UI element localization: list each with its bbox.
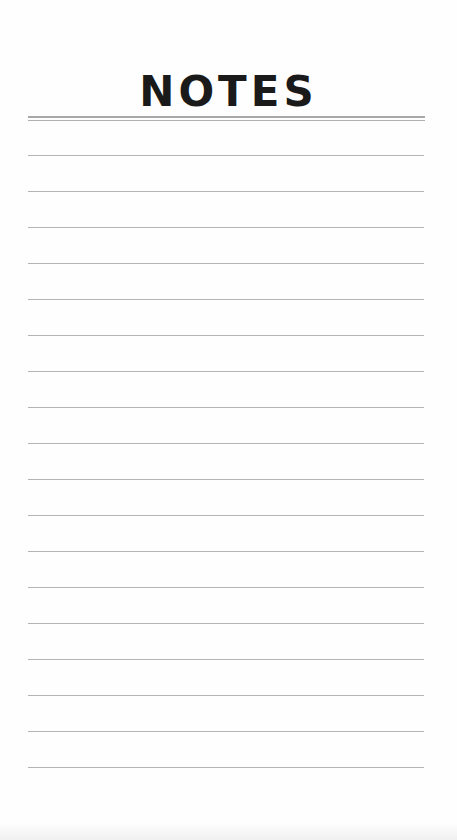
writing-line <box>28 335 424 336</box>
writing-line <box>28 587 424 588</box>
writing-line <box>28 191 424 192</box>
page-title: NOTES <box>0 68 457 116</box>
writing-line <box>28 371 424 372</box>
writing-line <box>28 479 424 480</box>
header-rule-bottom <box>28 120 425 121</box>
writing-line <box>28 155 424 156</box>
writing-line <box>28 515 424 516</box>
writing-line <box>28 731 424 732</box>
header-rule-top <box>28 116 425 118</box>
bottom-edge <box>0 822 457 840</box>
writing-line <box>28 767 424 768</box>
notes-page: NOTES <box>0 0 457 840</box>
writing-line <box>28 263 424 264</box>
writing-line <box>28 623 424 624</box>
writing-line <box>28 659 424 660</box>
writing-line <box>28 695 424 696</box>
writing-line <box>28 551 424 552</box>
writing-line <box>28 407 424 408</box>
writing-line <box>28 299 424 300</box>
writing-line <box>28 227 424 228</box>
writing-line <box>28 443 424 444</box>
